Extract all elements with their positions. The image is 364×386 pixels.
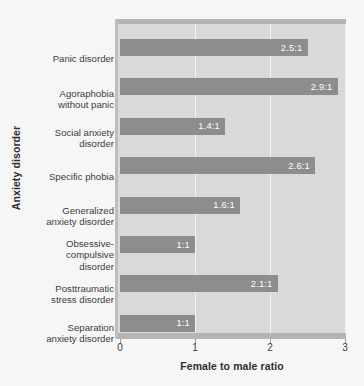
bar-value-label: 2.1:1 — [251, 279, 273, 289]
category-label: Posttraumaticstress disorder — [8, 283, 114, 306]
category-label-line: stress disorder — [8, 294, 114, 305]
bar: 1.6:1 — [120, 197, 240, 214]
bar: 2.6:1 — [120, 157, 315, 174]
x-tick-label: 3 — [333, 342, 357, 353]
bar-value-label: 1.6:1 — [213, 200, 235, 210]
bar-value-label: 2.6:1 — [288, 161, 310, 171]
category-label-line: anxiety disorder — [8, 216, 114, 227]
category-label-line: Separation — [8, 322, 114, 333]
category-label-line: Social anxiety — [8, 127, 114, 138]
category-label-line: anxiety disorder — [8, 333, 114, 344]
x-tick-label: 0 — [108, 342, 132, 353]
category-label: Social anxietydisorder — [8, 127, 114, 150]
bar-value-label: 1:1 — [176, 240, 190, 250]
bar: 1:1 — [120, 236, 195, 253]
category-label: Generalizedanxiety disorder — [8, 205, 114, 228]
x-tick-label: 2 — [258, 342, 282, 353]
category-label: Separationanxiety disorder — [8, 322, 114, 345]
bar: 2.1:1 — [120, 275, 278, 292]
category-label-line: Posttraumatic — [8, 283, 114, 294]
x-tick-label: 1 — [183, 342, 207, 353]
category-label: Panic disorder — [8, 53, 114, 64]
category-label: Specific phobia — [8, 171, 114, 182]
category-label-line: Panic disorder — [8, 53, 114, 64]
plot-top-border — [118, 19, 346, 24]
bar-value-label: 1.4:1 — [198, 121, 220, 131]
bar: 2.9:1 — [120, 78, 338, 95]
category-label-line: disorder — [8, 261, 114, 272]
bar-value-label: 2.9:1 — [311, 82, 333, 92]
category-label-line: Specific phobia — [8, 171, 114, 182]
category-label-line: disorder — [8, 138, 114, 149]
x-axis-title: Female to male ratio — [118, 360, 346, 372]
category-axis-labels: Panic disorder Agoraphobiawithout panic … — [8, 20, 114, 334]
bar-value-label: 1:1 — [176, 318, 190, 328]
y-axis-spine — [115, 19, 118, 339]
category-label: Agoraphobiawithout panic — [8, 88, 114, 111]
category-label-line: Obsessive- — [8, 238, 114, 249]
bar: 1.4:1 — [120, 118, 225, 135]
category-label-line: compulsive — [8, 249, 114, 260]
gridline — [345, 24, 346, 333]
plot-area: 2.5:12.9:11.4:12.6:11.6:11:12.1:11:1 — [118, 19, 346, 339]
category-label: Obsessive-compulsivedisorder — [8, 238, 114, 272]
bar: 2.5:1 — [120, 39, 308, 56]
category-label-line: Generalized — [8, 205, 114, 216]
plot-bottom-border — [118, 333, 346, 339]
bar-value-label: 2.5:1 — [281, 43, 303, 53]
bar: 1:1 — [120, 315, 195, 332]
category-label-line: Agoraphobia — [8, 88, 114, 99]
bar-chart-figure: Anxiety disorder Panic disorder Agorapho… — [0, 0, 364, 386]
category-label-line: without panic — [8, 99, 114, 110]
